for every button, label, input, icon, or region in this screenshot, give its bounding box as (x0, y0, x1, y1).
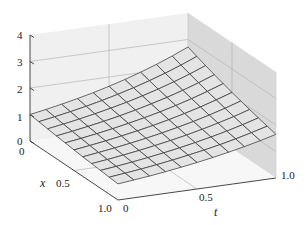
x-axis-label: x (39, 176, 46, 190)
z-tick-label: 2 (17, 83, 23, 95)
z-tick-label: 1 (17, 111, 23, 123)
x-tick-label: 1.0 (98, 202, 112, 214)
t-tick-label: 0 (123, 202, 129, 214)
t-tick-label: 1.0 (281, 169, 295, 181)
t-axis-label: t (214, 205, 218, 219)
x-tick-label: 0.5 (56, 177, 70, 189)
z-tick-label: 3 (17, 56, 23, 68)
z-axis-tick-labels: 4 3 2 1 0 (17, 29, 23, 147)
z-tick-label: 4 (17, 29, 23, 41)
x-tick-label: 0 (19, 145, 25, 157)
t-tick-label: 0.5 (199, 191, 213, 203)
surface-plot: 4 3 2 1 0 0 0.5 1.0 x 0 0.5 1.0 t (0, 0, 307, 225)
